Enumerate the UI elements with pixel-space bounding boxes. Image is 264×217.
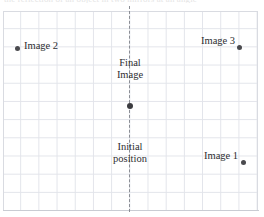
point-image-3 bbox=[237, 45, 242, 50]
top-caption-fragment: the reflection of an object in two mirro… bbox=[4, 0, 260, 3]
figure-canvas: the reflection of an object in two mirro… bbox=[0, 0, 264, 217]
label-initial-position-line2: position bbox=[101, 153, 159, 166]
label-image-2: Image 2 bbox=[24, 40, 58, 53]
point-image-2 bbox=[15, 46, 20, 51]
label-image-3: Image 3 bbox=[201, 35, 235, 48]
point-image-1 bbox=[241, 160, 246, 165]
label-initial-position-line1: Initial bbox=[106, 141, 154, 154]
point-final-image bbox=[127, 103, 133, 109]
label-final-image-line1: Final bbox=[111, 57, 149, 70]
label-image-1: Image 1 bbox=[204, 150, 238, 163]
label-final-image-line2: Image bbox=[111, 69, 149, 82]
grid-bottom-rule bbox=[3, 210, 259, 211]
mirror-axis-dashed-line bbox=[129, 6, 130, 212]
